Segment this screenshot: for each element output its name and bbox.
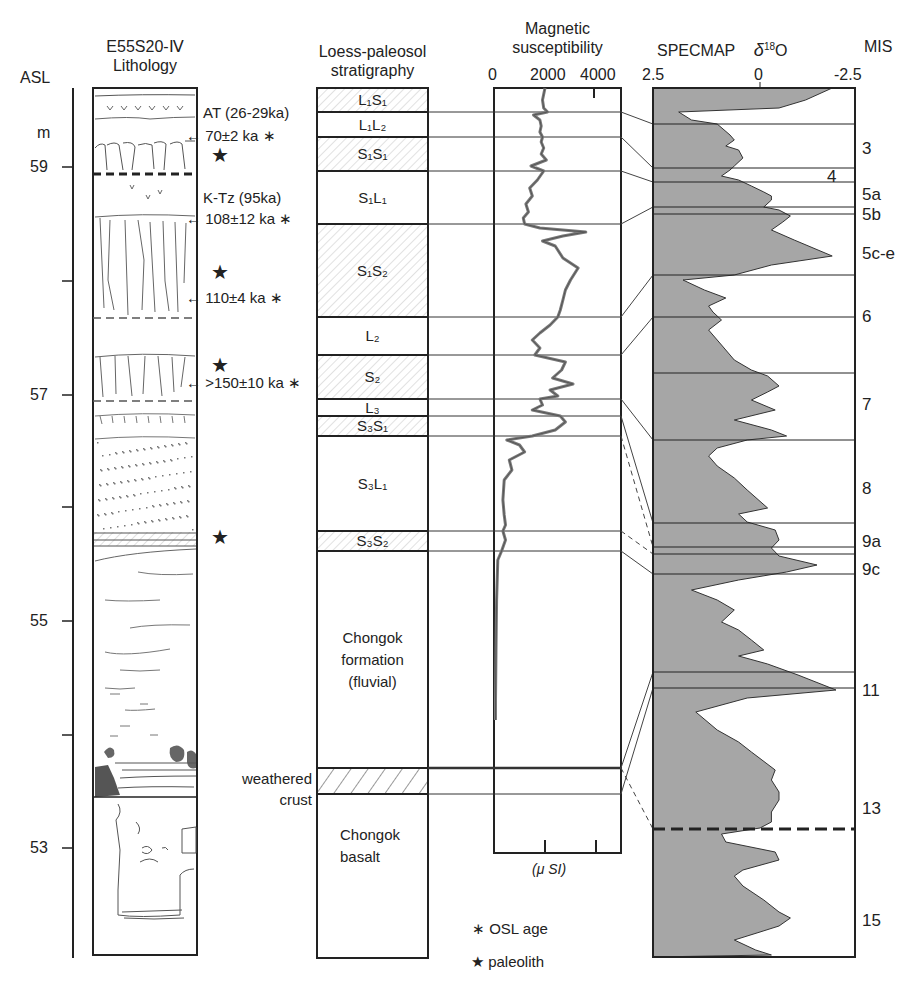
loess-title: Loess-paleosol bbox=[300, 42, 445, 61]
loess-unit-label: S₁S₁ bbox=[317, 143, 428, 165]
mis-label: 6 bbox=[862, 308, 871, 325]
weathered-crust-label: weathered crust bbox=[222, 768, 312, 810]
mis-label: 8 bbox=[862, 480, 871, 497]
asl-unit: m bbox=[37, 124, 50, 141]
loess-unit-label: Chongok basalt bbox=[340, 824, 451, 868]
arrow-left-icon: ← bbox=[186, 127, 205, 144]
paleolith-star-icon: ★ bbox=[211, 264, 229, 281]
loess-unit-label: L₁L₂ bbox=[317, 114, 428, 136]
lithology-annotation: K-Tz (95ka) bbox=[203, 189, 281, 206]
correlation-line bbox=[621, 416, 653, 523]
asl-tick-label: 53 bbox=[30, 839, 48, 856]
magsus-tick-label: 4000 bbox=[580, 66, 616, 83]
weathered-label: weathered bbox=[222, 768, 312, 789]
correlation-line bbox=[621, 768, 653, 829]
lithology-header: E55S20-Ⅳ Lithology bbox=[95, 37, 195, 75]
correlation-line bbox=[621, 112, 653, 124]
delta-o: O bbox=[775, 42, 787, 59]
specmap-panel bbox=[653, 82, 855, 957]
loess-unit-label: S₁L₁ bbox=[317, 187, 428, 209]
asl-label: ASL bbox=[20, 69, 50, 86]
mis-label: 4 bbox=[827, 168, 836, 185]
annotation-text: 70±2 ka ∗ bbox=[205, 127, 275, 144]
arrow-left-icon: ← bbox=[186, 210, 205, 227]
magsus-tick-label: 2000 bbox=[530, 66, 566, 83]
correlation-line bbox=[621, 317, 653, 355]
mis-label: 5c-e bbox=[862, 245, 895, 262]
asl-tick-label: 55 bbox=[30, 612, 48, 629]
correlation-line bbox=[621, 551, 653, 574]
asl-tick-label: 59 bbox=[30, 158, 48, 175]
lithology-annotation: ← 110±4 ka ∗ bbox=[186, 289, 283, 306]
annotation-text: >150±10 ka ∗ bbox=[205, 374, 301, 391]
annotation-text: 108±12 ka ∗ bbox=[205, 210, 292, 227]
correlation-line bbox=[621, 275, 653, 317]
mis-label: 3 bbox=[862, 140, 871, 157]
delta-superscript: 18 bbox=[764, 41, 775, 52]
loess-unit bbox=[317, 768, 428, 794]
asl-axis bbox=[62, 88, 73, 958]
lithology-title: E55S20-Ⅳ bbox=[95, 37, 195, 56]
paleolith-star-icon: ★ bbox=[211, 529, 229, 546]
loess-header: Loess-paleosol stratigraphy bbox=[300, 42, 445, 80]
mis-label: 15 bbox=[862, 912, 881, 929]
loess-unit-label: Chongok formation (fluvial) bbox=[317, 627, 428, 693]
paleolith-star-icon: ★ bbox=[211, 357, 229, 374]
loess-unit-label: S₃S₁ bbox=[317, 415, 428, 437]
correlation-line bbox=[621, 672, 653, 768]
arrow-left-icon: ← bbox=[186, 374, 205, 391]
paleolith-star-icon: ★ bbox=[211, 147, 229, 164]
loess-unit-label: L₁S₁ bbox=[317, 89, 428, 111]
annotation-text: K-Tz (95ka) bbox=[203, 189, 281, 206]
correlation-line bbox=[621, 137, 653, 168]
legend-osl: ∗ OSL age bbox=[472, 920, 548, 937]
mis-header: MIS bbox=[864, 38, 892, 55]
correlation-line bbox=[621, 207, 653, 224]
magsus-subtitle: susceptibility bbox=[490, 38, 625, 57]
mis-label: 7 bbox=[862, 396, 871, 413]
magsus-panel bbox=[428, 88, 621, 853]
specmap-tick-label: -2.5 bbox=[834, 66, 862, 83]
legend-paleolith: ★ paleolith bbox=[471, 953, 544, 970]
legend-paleolith-label: paleolith bbox=[488, 953, 544, 970]
annotation-text: 110±4 ka ∗ bbox=[205, 289, 283, 306]
lithology-subtitle: Lithology bbox=[95, 56, 195, 75]
loess-unit bbox=[317, 794, 428, 958]
specmap-tick-label: 0 bbox=[754, 66, 763, 83]
mis-label: 11 bbox=[862, 682, 880, 699]
asl-tick-label: 57 bbox=[30, 386, 48, 403]
arrow-left-icon: ← bbox=[186, 289, 205, 306]
loess-unit-label: S₃L₁ bbox=[317, 473, 428, 495]
legend-osl-label: OSL age bbox=[489, 920, 548, 937]
asterisk-icon: ∗ bbox=[472, 920, 485, 937]
magsus-tick-label: 0 bbox=[488, 66, 497, 83]
correlation-line bbox=[621, 436, 653, 547]
lithology-column bbox=[93, 88, 197, 955]
specmap-title: SPECMAP bbox=[657, 42, 735, 59]
correlation-line bbox=[621, 531, 653, 554]
loess-unit-label: L₂ bbox=[317, 325, 428, 347]
mis-label: 9c bbox=[862, 561, 880, 578]
specmap-header: SPECMAP δ18O bbox=[657, 38, 787, 59]
stratigraphy-figure bbox=[0, 0, 921, 989]
correlation-line bbox=[621, 171, 653, 182]
loess-unit-label: S₃S₂ bbox=[317, 530, 428, 552]
magsus-header: Magnetic susceptibility bbox=[490, 19, 625, 57]
crust-label: crust bbox=[222, 789, 312, 810]
loess-unit-label: S₁S₂ bbox=[317, 260, 428, 282]
magsus-title: Magnetic bbox=[490, 19, 625, 38]
mis-label: 13 bbox=[862, 800, 881, 817]
mis-label: 9a bbox=[862, 533, 881, 550]
star-icon: ★ bbox=[471, 953, 484, 970]
lithology-annotation: ← 108±12 ka ∗ bbox=[186, 210, 292, 227]
lithology-annotation: AT (26-29ka) bbox=[203, 104, 289, 121]
correlation-lines bbox=[621, 112, 653, 829]
lithology-annotation: ← >150±10 ka ∗ bbox=[186, 374, 301, 391]
loess-subtitle: stratigraphy bbox=[300, 61, 445, 80]
loess-unit-label: S₂ bbox=[317, 366, 428, 388]
lithology-annotation: ← 70±2 ka ∗ bbox=[186, 127, 276, 144]
annotation-text: AT (26-29ka) bbox=[203, 104, 289, 121]
mis-label: 5a bbox=[862, 186, 881, 203]
correlation-line bbox=[621, 399, 653, 440]
specmap-tick-label: 2.5 bbox=[642, 66, 664, 83]
